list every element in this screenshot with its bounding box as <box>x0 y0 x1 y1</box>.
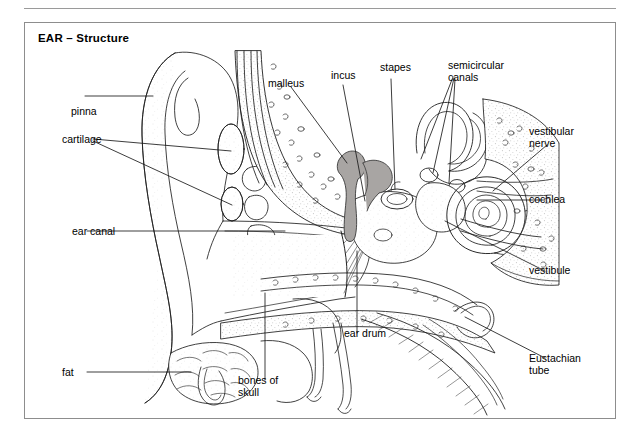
figure-page: EAR – Structure <box>0 0 636 443</box>
label-incus: incus <box>331 69 356 81</box>
label-stapes: stapes <box>380 61 411 73</box>
leader-scc-2 <box>433 78 454 173</box>
ear-canal <box>221 221 355 321</box>
label-pinna: pinna <box>71 105 97 117</box>
label-vestibule: vestibule <box>529 264 570 276</box>
label-cochlea: cochlea <box>529 193 565 205</box>
label-ear-canal: ear canal <box>72 225 115 237</box>
leader-scc-1 <box>421 77 453 159</box>
label-eustachian-tube: Eustachian tube <box>529 352 581 376</box>
label-fat: fat <box>62 366 74 378</box>
label-ear-drum: ear drum <box>344 327 386 339</box>
label-bones-of-skull: bones of skull <box>238 374 278 398</box>
top-divider-rule <box>24 8 616 9</box>
label-malleus: malleus <box>268 77 304 89</box>
semicircular-canals <box>416 102 487 192</box>
label-semicircular-canals: semicircular canals <box>448 59 504 83</box>
figure-frame: EAR – Structure <box>24 22 616 419</box>
leader-malleus <box>291 87 347 163</box>
art-ink <box>85 51 559 415</box>
label-cartilage: cartilage <box>62 133 102 145</box>
label-vestibular-nerve: vestibular nerve <box>529 125 574 149</box>
